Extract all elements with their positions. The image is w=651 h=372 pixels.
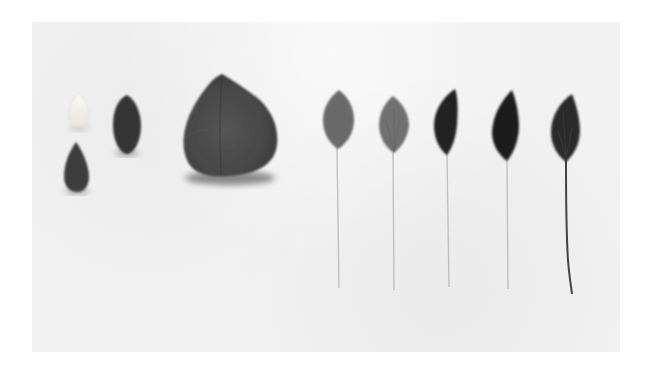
feather-3	[434, 89, 458, 287]
objects-layer	[0, 0, 651, 372]
feather-2	[379, 96, 409, 290]
feather-5	[551, 94, 580, 294]
white-seed	[69, 93, 89, 131]
feather-4	[492, 90, 519, 289]
large-petal	[184, 74, 278, 185]
feather-1	[323, 90, 354, 288]
dark-almond-seed	[113, 95, 141, 156]
dark-teardrop-seed	[64, 142, 89, 194]
